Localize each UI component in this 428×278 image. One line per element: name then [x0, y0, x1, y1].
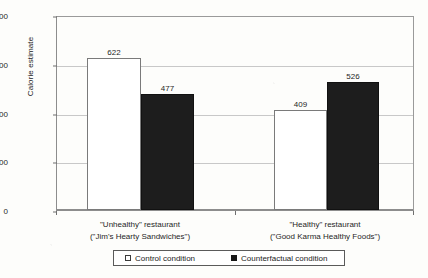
y-axis-title: Calorie estimate	[26, 0, 35, 152]
x-category-unhealthy-line2: ("Jim's Hearty Sandwiches")	[90, 231, 190, 243]
y-tick-label-200: 200	[0, 158, 8, 167]
y-tick-mark-800	[53, 17, 57, 18]
bar-unhealthy-control[interactable]	[87, 58, 141, 210]
x-category-unhealthy: "Unhealthy" restaurant ("Jim's Hearty Sa…	[90, 219, 190, 242]
plot-area: 622 477 409 526	[56, 16, 414, 211]
x-category-healthy: "Healthy" restaurant ("Good Karma Health…	[270, 219, 380, 242]
x-category-healthy-line1: "Healthy" restaurant	[270, 219, 380, 231]
bar-value-label-409: 409	[294, 100, 307, 109]
legend-item-counterfactual[interactable]: Counterfactual condition	[231, 254, 327, 263]
x-category-healthy-line2: ("Good Karma Healthy Foods")	[270, 231, 380, 243]
y-tick-label-0: 0	[0, 207, 8, 216]
legend-label-control: Control condition	[135, 254, 195, 263]
open-square-swatch-icon	[125, 255, 131, 261]
y-tick-label-400: 400	[0, 109, 8, 118]
y-tick-mark-400	[53, 114, 57, 115]
bar-healthy-counterfactual[interactable]	[327, 82, 379, 210]
x-tick-mark-left	[56, 211, 57, 215]
bar-value-label-526: 526	[346, 72, 359, 81]
y-tick-mark-200	[53, 163, 57, 164]
x-tick-mark-right	[413, 211, 414, 215]
bar-chart: Calorie estimate 800 600 400 200 0 622 4…	[0, 0, 428, 278]
y-tick-label-800: 800	[0, 12, 8, 21]
bar-unhealthy-counterfactual[interactable]	[141, 94, 194, 210]
x-tick-mark-middle	[235, 211, 236, 215]
bar-value-label-477: 477	[161, 84, 174, 93]
y-tick-mark-600	[53, 65, 57, 66]
legend-item-control[interactable]: Control condition	[125, 254, 195, 263]
y-tick-label-600: 600	[0, 60, 8, 69]
bar-value-label-622: 622	[107, 48, 120, 57]
bar-healthy-control[interactable]	[274, 110, 327, 210]
x-category-unhealthy-line1: "Unhealthy" restaurant	[90, 219, 190, 231]
legend-label-counterfactual: Counterfactual condition	[241, 254, 327, 263]
chart-legend: Control condition Counterfactual conditi…	[113, 250, 345, 266]
filled-square-swatch-icon	[231, 255, 237, 261]
